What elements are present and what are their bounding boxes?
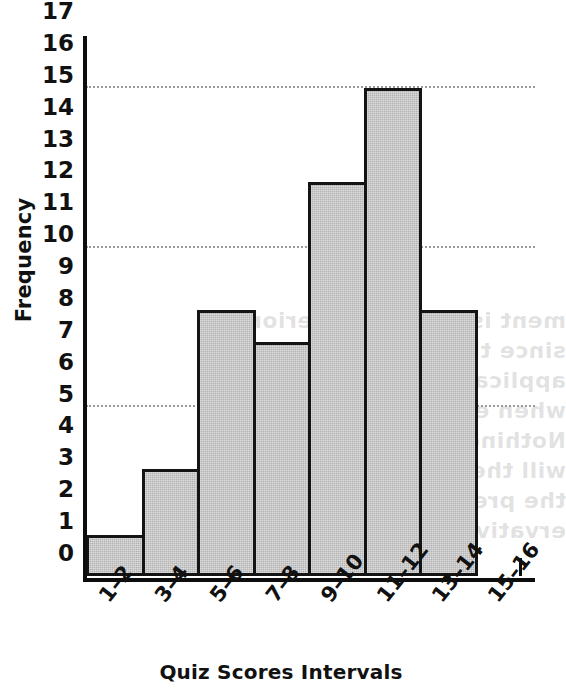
y-tick-label: 5: [58, 382, 74, 405]
y-tick-label: 13: [42, 127, 74, 150]
plot-area: ment is de ed to interior since the size…: [86, 36, 535, 580]
y-tick-label: 0: [58, 542, 74, 565]
y-tick-label: 10: [42, 223, 74, 246]
y-tick-label: 9: [58, 255, 74, 278]
y-tick-label: 12: [42, 159, 74, 182]
y-tick-label: 4: [58, 414, 74, 437]
histogram-bar: [364, 88, 423, 576]
histogram-bar: [253, 342, 312, 576]
y-axis-line: [83, 36, 87, 582]
y-tick-label: 3: [58, 446, 74, 469]
histogram-bar: [197, 310, 256, 576]
y-tick-label: 16: [42, 31, 74, 54]
y-tick-label: 17: [42, 0, 74, 23]
y-tick-label: 6: [58, 350, 74, 373]
histogram-bar: [142, 469, 201, 576]
y-tick-label: 11: [42, 191, 74, 214]
y-tick-label: 14: [42, 95, 74, 118]
gridline: [86, 86, 535, 88]
x-axis-title: Quiz Scores Intervals: [0, 660, 562, 684]
y-tick-label: 1: [58, 510, 74, 533]
x-tick-label: 15–16: [483, 538, 544, 607]
y-tick-label: 7: [58, 318, 74, 341]
y-tick-label: 2: [58, 478, 74, 501]
y-tick-label: 15: [42, 63, 74, 86]
y-tick-label: 8: [58, 286, 74, 309]
y-axis-title: Frequency: [12, 180, 36, 340]
histogram-bar: [419, 310, 478, 576]
histogram-bar: [308, 182, 367, 576]
